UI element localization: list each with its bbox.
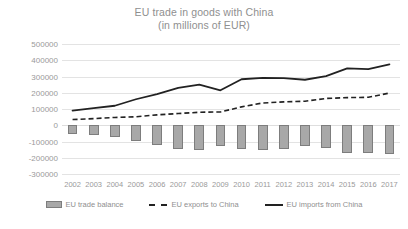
x-axis-tick-label: 2004 [106,180,123,189]
bar-swatch-icon [46,201,62,208]
y-axis-tick-label: -100000 [29,137,58,146]
x-axis-tick-label: 2009 [212,180,229,189]
chart-title: EU trade in goods with China [0,6,408,19]
x-axis-tick-label: 2015 [339,180,356,189]
y-axis-tick-label: -200000 [29,153,58,162]
y-axis-tick-label: 0 [54,121,58,130]
x-axis-tick-label: 2012 [275,180,292,189]
y-axis-tick-label: 100000 [31,105,58,114]
x-axis-tick-label: 2013 [297,180,314,189]
x-axis-tick-label: 2003 [85,180,102,189]
y-axis-labels: 5000004000003000002000001000000-100000-2… [0,44,58,174]
x-axis-labels: 2002200320042005200620072008200920102011… [62,180,400,192]
y-axis-tick-label: 400000 [31,56,58,65]
line-eu-exports-to-china [73,93,390,119]
x-axis-tick-label: 2017 [381,180,398,189]
legend-label-eu-exports-to-china: EU exports to China [171,200,238,209]
dashed-line-swatch-icon [149,204,167,206]
x-axis-tick-label: 2007 [170,180,187,189]
x-axis-tick-label: 2010 [233,180,250,189]
x-axis-tick-label: 2016 [360,180,377,189]
x-axis-tick-label: 2014 [318,180,335,189]
legend-item-eu-trade-balance: EU trade balance [46,200,124,209]
x-axis-tick-label: 2002 [64,180,81,189]
legend-label-eu-imports-from-china: EU imports from China [287,200,363,209]
legend-item-eu-exports-to-china: EU exports to China [149,200,238,209]
chart-subtitle: (in millions of EUR) [0,19,408,32]
line-eu-imports-from-china [73,64,390,110]
y-axis-tick-label: 300000 [31,72,58,81]
chart-title-block: EU trade in goods with China (in million… [0,6,408,32]
gridline [62,174,400,175]
y-axis-tick-label: -300000 [29,170,58,179]
solid-line-swatch-icon [265,204,283,206]
plot-area [62,44,400,174]
line-series-layer [62,44,400,174]
y-axis-tick-label: 200000 [31,88,58,97]
x-axis-tick-label: 2011 [255,180,271,189]
y-axis-tick-label: 500000 [31,40,58,49]
x-axis-tick-label: 2005 [128,180,145,189]
x-axis-tick-label: 2006 [149,180,166,189]
x-axis-tick-label: 2008 [191,180,208,189]
legend-item-eu-imports-from-china: EU imports from China [265,200,363,209]
chart-container: EU trade in goods with China (in million… [0,0,408,229]
chart-legend: EU trade balance EU exports to China EU … [0,200,408,209]
legend-label-eu-trade-balance: EU trade balance [66,200,124,209]
